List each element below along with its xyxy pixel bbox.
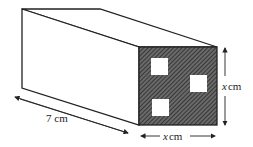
hole-square-2 [190, 75, 207, 92]
front-face [139, 47, 217, 125]
hole-square-3 [152, 99, 169, 116]
width-label: xcm [162, 130, 183, 142]
height-label: xcm [221, 80, 242, 92]
cuboid-diagram: 7 cm xcm xcm [0, 0, 253, 147]
length-label: 7 cm [46, 112, 68, 124]
hole-square-1 [151, 58, 168, 75]
